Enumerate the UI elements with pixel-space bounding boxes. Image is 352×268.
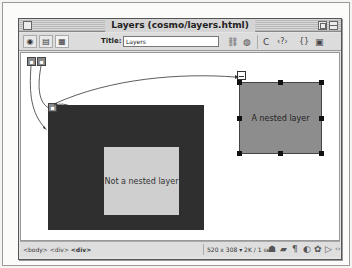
- assets-icon[interactable]: ▰: [280, 244, 287, 255]
- view-options-icon[interactable]: ▣: [315, 36, 324, 48]
- preview-browser-icon[interactable]: ◍: [243, 36, 251, 48]
- css-styles-icon[interactable]: ◐: [303, 244, 311, 255]
- layer-marker-icon[interactable]: ▪: [37, 57, 46, 66]
- collapse-box[interactable]: [329, 21, 338, 30]
- html-styles-icon[interactable]: ¶: [292, 244, 298, 255]
- window-size-popup[interactable]: 520 x 308 ▾ 2K / 1 sec: [203, 244, 274, 255]
- resize-handle[interactable]: [237, 80, 242, 85]
- resize-handle[interactable]: [278, 151, 283, 156]
- tag-selector: <body> <div> <div>: [23, 246, 91, 253]
- not-nested-box[interactable]: Not a nested layer: [104, 147, 179, 215]
- site-icon[interactable]: ☗: [268, 244, 276, 255]
- eye-icon: ◉: [27, 37, 34, 46]
- zoom-box[interactable]: [318, 21, 327, 30]
- document-window: Layers (cosmo/layers.html) ◉ ▤ ▦ Title: …: [18, 18, 342, 260]
- status-bar: <body> <div> <div> 520 x 308 ▾ 2K / 1 se…: [20, 241, 340, 257]
- layer-anchor-icon[interactable]: ▪: [48, 103, 57, 112]
- nested-layer-label: A nested layer: [252, 114, 310, 123]
- toolbar-divider: [257, 35, 258, 49]
- behaviors-icon[interactable]: ✿: [314, 244, 322, 255]
- tag-div-selected[interactable]: <div>: [71, 246, 91, 253]
- resize-handle[interactable]: [319, 116, 324, 121]
- resize-handle[interactable]: [319, 80, 324, 85]
- resize-handle[interactable]: [278, 80, 283, 85]
- file-management-icon[interactable]: ⛓: [227, 36, 238, 48]
- window-size[interactable]: 520 x 308: [207, 246, 237, 253]
- design-view-icon: ▦: [58, 37, 66, 46]
- not-nested-label: Not a nested layer: [105, 177, 179, 186]
- close-box[interactable]: [23, 21, 32, 30]
- split-view-icon: ▤: [42, 37, 50, 46]
- dark-layer[interactable]: Not a nested layer: [48, 105, 204, 230]
- design-view-button[interactable]: ▦: [55, 35, 69, 48]
- window-title: Layers (cosmo/layers.html): [105, 19, 255, 32]
- code-inspector-icon[interactable]: ‹›: [335, 244, 341, 255]
- resize-handle[interactable]: [237, 116, 242, 121]
- nested-layer-anchor-icon[interactable]: [237, 71, 246, 80]
- tag-div[interactable]: <div>: [50, 246, 69, 253]
- title-bar[interactable]: Layers (cosmo/layers.html): [19, 19, 341, 32]
- history-icon[interactable]: ▷: [325, 244, 332, 255]
- code-navigation-icon[interactable]: {}: [299, 36, 309, 48]
- toolbar: ◉ ▤ ▦ Title: Layers ⛓ ◍ C ‹?› {} ▣: [19, 33, 341, 51]
- tag-body[interactable]: <body>: [23, 246, 48, 253]
- layer-marker-icon[interactable]: ▪: [27, 57, 36, 66]
- design-canvas[interactable]: ▪ ▪ Not a nested layer ▪ A nested layer: [20, 52, 340, 241]
- reference-icon[interactable]: ‹?›: [277, 36, 288, 48]
- nested-layer[interactable]: A nested layer: [239, 82, 322, 154]
- title-label: Title:: [101, 37, 121, 45]
- title-input[interactable]: Layers: [123, 36, 219, 47]
- split-view-button[interactable]: ▤: [39, 35, 53, 48]
- resize-handle[interactable]: [237, 151, 242, 156]
- resize-handle[interactable]: [319, 151, 324, 156]
- code-view-button[interactable]: ◉: [23, 35, 37, 48]
- refresh-icon[interactable]: C: [263, 36, 269, 48]
